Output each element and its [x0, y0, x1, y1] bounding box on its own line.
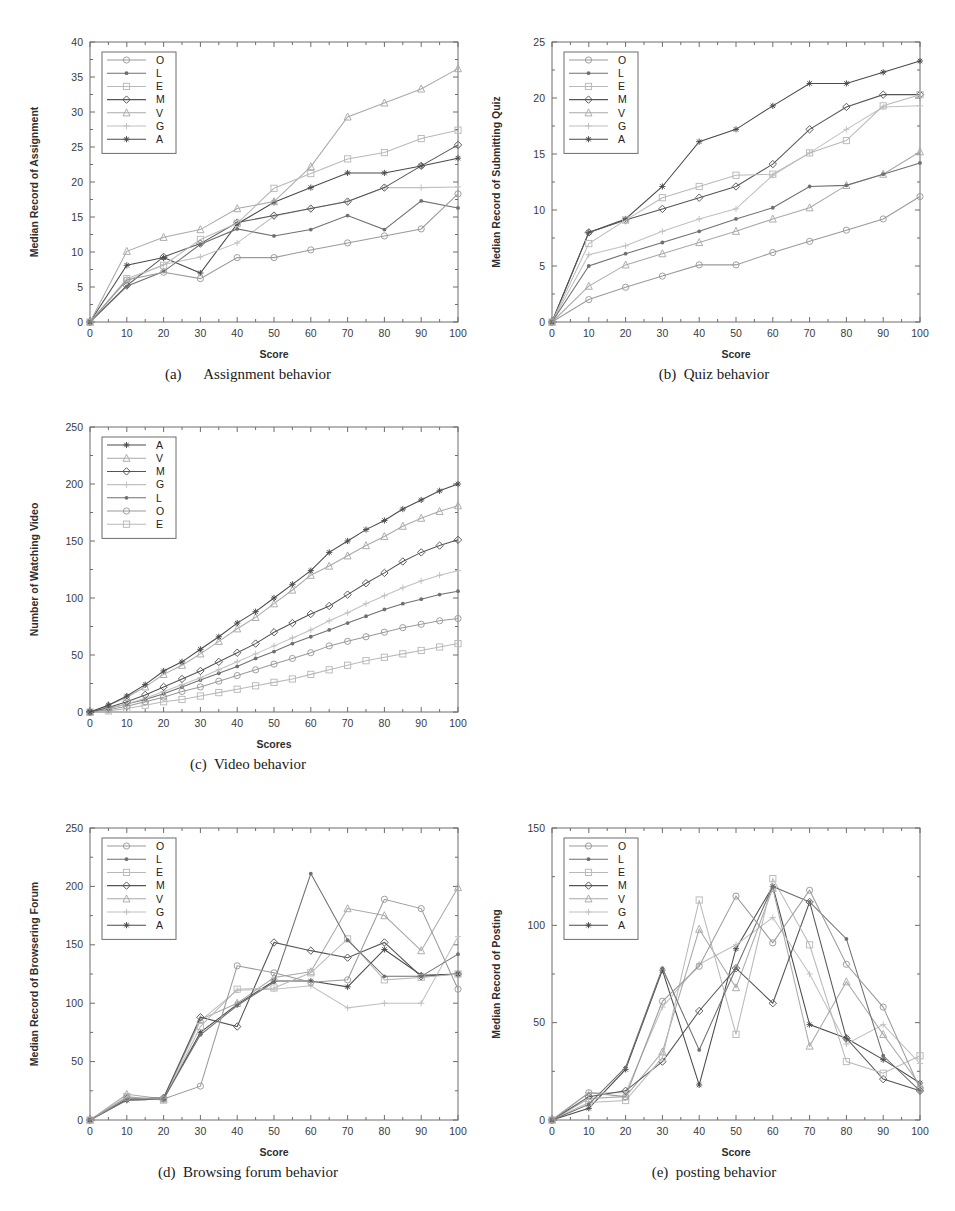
y-tick-label: 150: [65, 535, 83, 547]
marker-A: [880, 69, 886, 75]
legend-label-M: M: [618, 879, 627, 891]
x-tick-label: 0: [549, 1125, 555, 1137]
x-tick-label: 30: [195, 717, 207, 729]
marker-G: [917, 103, 923, 109]
x-tick-label: 50: [730, 1125, 742, 1137]
legend-label-V: V: [156, 107, 163, 119]
marker-L: [383, 974, 387, 978]
marker-L: [309, 872, 313, 876]
marker-A: [455, 481, 461, 487]
series-E: [87, 127, 461, 325]
marker-L: [697, 1048, 701, 1052]
x-tick-label: 40: [693, 327, 705, 339]
x-tick-label: 80: [841, 1125, 853, 1137]
marker-G: [345, 610, 351, 616]
caption-c: (c) Video behavior: [22, 756, 474, 773]
x-tick-label: 60: [767, 1125, 779, 1137]
legend-label-O: O: [156, 54, 164, 66]
marker-A: [289, 581, 295, 587]
marker-G: [271, 643, 277, 649]
legend-label-G: G: [156, 478, 164, 490]
marker-A: [437, 488, 443, 494]
marker-A: [124, 262, 130, 268]
x-tick-label: 50: [268, 717, 280, 729]
x-tick-label: 30: [657, 327, 669, 339]
x-tick-label: 60: [767, 327, 779, 339]
marker-A: [234, 620, 240, 626]
y-tick-label: 5: [539, 260, 545, 272]
marker-A: [308, 185, 314, 191]
marker-A: [142, 682, 148, 688]
x-tick-label: 50: [730, 327, 742, 339]
legend-label-L: L: [156, 67, 162, 79]
chart-b: 01020304050607080901000510152025ScoreMed…: [484, 26, 936, 366]
x-tick-label: 80: [379, 717, 391, 729]
x-tick-label: 80: [379, 327, 391, 339]
x-tick-label: 40: [231, 327, 243, 339]
y-tick-label: 50: [71, 649, 83, 661]
x-tick-label: 50: [268, 1125, 280, 1137]
marker-G: [418, 578, 424, 584]
legend-label-V: V: [156, 893, 163, 905]
marker-A: [308, 568, 314, 574]
y-tick-label: 25: [533, 36, 545, 48]
y-tick-label: 150: [65, 938, 83, 950]
legend-label-G: G: [156, 120, 164, 132]
legend-label-E: E: [156, 80, 163, 92]
marker-L: [346, 214, 350, 218]
marker-L: [661, 241, 665, 245]
legend: AVMGLOE: [102, 437, 176, 538]
legend-marker-L: [125, 857, 129, 861]
marker-A: [87, 709, 93, 715]
legend-label-M: M: [156, 879, 165, 891]
legend-label-L: L: [618, 67, 624, 79]
marker-A: [659, 183, 665, 189]
marker-G: [381, 1000, 387, 1006]
marker-L: [845, 183, 849, 187]
legend-label-L: L: [156, 853, 162, 865]
legend-label-E: E: [618, 866, 625, 878]
marker-L: [881, 1054, 885, 1058]
chart-a: 01020304050607080901000510152025303540Sc…: [22, 26, 474, 366]
legend-label-O: O: [618, 54, 626, 66]
x-tick-label: 90: [877, 327, 889, 339]
y-tick-label: 150: [527, 822, 545, 834]
marker-A: [770, 103, 776, 109]
x-tick-label: 10: [121, 327, 133, 339]
legend-box: [564, 52, 638, 153]
y-tick-label: 200: [65, 478, 83, 490]
marker-G: [234, 659, 240, 665]
marker-L: [272, 650, 276, 654]
marker-A: [807, 1022, 813, 1028]
series-line-E: [90, 130, 458, 322]
x-tick-label: 80: [379, 1125, 391, 1137]
x-tick-label: 60: [305, 717, 317, 729]
x-tick-label: 100: [911, 327, 929, 339]
x-tick-label: 100: [449, 327, 467, 339]
series-line-M: [90, 145, 458, 322]
marker-G: [807, 971, 813, 977]
legend-marker-A: [123, 442, 129, 448]
marker-A: [197, 646, 203, 652]
marker-A: [345, 538, 351, 544]
marker-L: [808, 900, 812, 904]
y-tick-label: 5: [77, 281, 83, 293]
marker-A: [326, 549, 332, 555]
legend-label-L: L: [618, 853, 624, 865]
marker-L: [881, 172, 885, 176]
series-L: [550, 161, 922, 324]
marker-L: [401, 602, 405, 606]
marker-G: [659, 228, 665, 234]
marker-G: [308, 627, 314, 633]
legend-label-G: G: [156, 906, 164, 918]
x-tick-label: 80: [841, 327, 853, 339]
y-tick-label: 100: [65, 592, 83, 604]
y-tick-label: 250: [65, 822, 83, 834]
marker-L: [235, 1004, 239, 1008]
x-tick-label: 50: [268, 327, 280, 339]
y-tick-label: 10: [533, 204, 545, 216]
marker-L: [624, 252, 628, 256]
marker-A: [917, 58, 923, 64]
x-tick-label: 100: [911, 1125, 929, 1137]
x-tick-label: 100: [449, 1125, 467, 1137]
